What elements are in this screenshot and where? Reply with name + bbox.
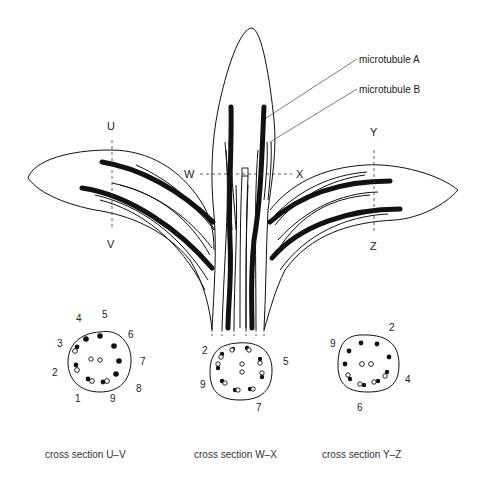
uv-number-9: 9	[110, 393, 116, 404]
right-lobe	[264, 165, 458, 330]
microtubule-a-right	[270, 181, 400, 258]
caption-cross-section-wx: cross section W–X	[194, 449, 277, 460]
wx-number-2: 2	[202, 345, 208, 356]
uv-number-2: 2	[52, 367, 58, 378]
uv-number-6: 6	[128, 329, 134, 340]
uv-number-1: 1	[75, 393, 81, 404]
microtubule-diagram: U V W X Y Z microtubule A microtubule B …	[0, 0, 482, 487]
label-z: Z	[370, 240, 377, 252]
yz-number-2: 2	[389, 322, 395, 333]
wx-number-7: 7	[256, 402, 262, 413]
uv-number-8: 8	[136, 383, 142, 394]
label-microtubule-b: microtubule B	[359, 84, 420, 95]
label-w: W	[184, 168, 195, 180]
label-u: U	[107, 120, 115, 132]
label-microtubule-a: microtubule A	[359, 54, 420, 65]
yz-number-6: 6	[357, 402, 363, 413]
caption-cross-section-yz: cross section Y–Z	[322, 449, 401, 460]
cross-section-yz: 2 4 6 9	[330, 322, 411, 413]
yz-number-9: 9	[330, 338, 336, 349]
uv-number-4: 4	[76, 313, 82, 324]
cross-section-wx: 2 5 7 9	[200, 343, 289, 413]
uv-number-5: 5	[102, 309, 108, 320]
leader-microtubule-b	[270, 89, 357, 142]
wx-number-9: 9	[200, 379, 206, 390]
caption-cross-section-uv: cross section U–V	[45, 449, 126, 460]
stem-ends	[212, 330, 264, 338]
leader-microtubule-a	[266, 59, 357, 118]
uv-number-7: 7	[140, 356, 146, 367]
uv-number-3: 3	[57, 338, 63, 349]
label-x: X	[296, 168, 304, 180]
wx-number-5: 5	[283, 356, 289, 367]
cross-section-uv: 1 2 3 4 5 6 7 8 9	[52, 309, 146, 404]
yz-number-4: 4	[405, 374, 411, 385]
label-v: V	[107, 238, 115, 250]
label-y: Y	[370, 126, 378, 138]
